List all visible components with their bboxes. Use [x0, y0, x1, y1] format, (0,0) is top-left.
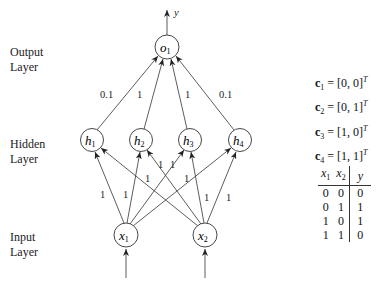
cell: 1 [349, 214, 371, 228]
weight-x2-h1: 1 [145, 173, 150, 184]
edge-x2-h4 [207, 152, 236, 223]
edge-x2-h1 [101, 148, 198, 226]
cell: 1 [318, 214, 333, 228]
cell: 0 [318, 186, 333, 201]
weight-x2-h4: 1 [226, 192, 231, 203]
cell: 1 [349, 200, 371, 214]
table-row: 0 0 0 [318, 186, 371, 201]
table-row: 0 1 1 [318, 200, 371, 214]
table-row: 1 1 0 [318, 228, 371, 242]
output-y-label: y [173, 7, 179, 18]
edge-x1-h4 [133, 148, 231, 226]
weight-h1-o1: 0.1 [100, 89, 113, 100]
cell: 0 [333, 214, 349, 228]
weight-h4-o1: 0.1 [219, 89, 232, 100]
cell: 1 [333, 200, 349, 214]
weight-x1-h4: 1 [184, 173, 189, 184]
vector-c1: c1 = [0, 0]T [315, 72, 368, 96]
table-row: 1 0 1 [318, 214, 371, 228]
cell: 0 [349, 228, 371, 242]
vector-list: c1 = [0, 0]T c2 = [0, 1]T c3 = [1, 0]T c… [315, 72, 368, 170]
weight-x1-h2: 1 [123, 189, 128, 200]
weight-x2-h3: 1 [204, 192, 209, 203]
weight-h2-o1: 1 [137, 89, 142, 100]
header-y: y [349, 166, 371, 186]
weight-x1-h1: 1 [100, 189, 105, 200]
table-header-row: x1 x2 y [318, 166, 371, 186]
header-x2: x2 [333, 166, 349, 186]
cell: 1 [318, 228, 333, 242]
weight-x1-h3: 1 [170, 159, 175, 170]
vector-c3: c3 = [1, 0]T [315, 121, 368, 145]
xor-truth-table: x1 x2 y 0 0 0 0 1 1 1 0 1 1 1 0 [318, 166, 371, 242]
vector-c2: c2 = [0, 1]T [315, 96, 368, 120]
weight-h3-o1: 1 [185, 89, 190, 100]
weight-x2-h2: 1 [158, 159, 163, 170]
cell: 0 [349, 186, 371, 201]
cell: 0 [333, 186, 349, 201]
cell: 0 [318, 200, 333, 214]
header-x1: x1 [318, 166, 333, 186]
cell: 1 [333, 228, 349, 242]
